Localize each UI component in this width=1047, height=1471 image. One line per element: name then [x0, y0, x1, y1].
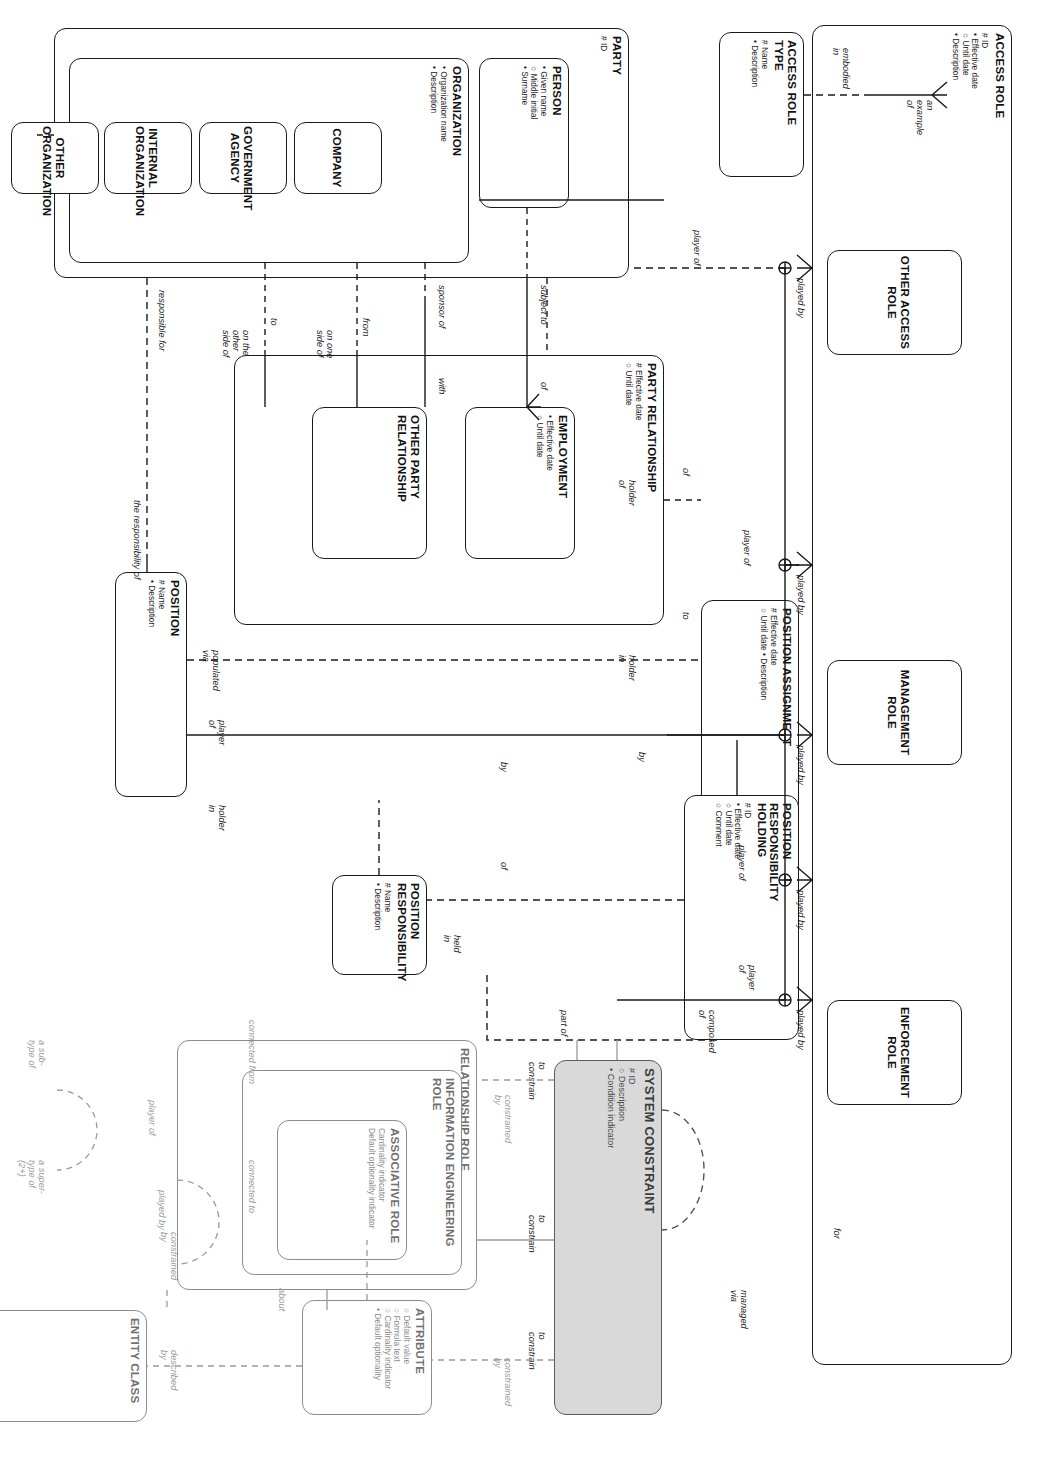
label-a-subtype-of: a sub- type of: [27, 1040, 47, 1068]
label-constrained-by-entity-class: constrained by: [159, 1232, 179, 1280]
entity-other-access-role[interactable]: OTHER ACCESS ROLE: [827, 250, 962, 355]
entity-title: OTHER ACCESS ROLE: [886, 255, 911, 350]
entity-system-constraint[interactable]: SYSTEM CONSTRAINT # ID ○ Description • C…: [554, 1060, 662, 1415]
entity-other-organization[interactable]: OTHER ORGANIZATION: [11, 122, 99, 194]
entity-attributes: # ID: [598, 36, 608, 274]
label-of-position-responsibility: of: [499, 862, 509, 870]
label-by-left: by: [637, 752, 647, 762]
entity-position[interactable]: POSITION # Name • Description: [115, 572, 187, 797]
label-player-of-entity-class: player of: [147, 1100, 157, 1136]
label-to-constrain-3: to constrain: [527, 1332, 547, 1370]
label-played-by-5: played by: [796, 1010, 806, 1050]
label-played-by-3: played by: [796, 745, 806, 785]
entity-title: EMPLOYMENT: [557, 415, 570, 554]
label-of-party-relationship: of: [681, 468, 691, 476]
entity-government-agency[interactable]: GOVERNMENT AGENCY: [199, 122, 287, 194]
entity-title: OTHER ORGANIZATION: [41, 126, 66, 190]
entity-title: PARTY RELATIONSHIP: [646, 363, 659, 620]
label-subject-to: subject to: [539, 285, 549, 325]
label-a-supertype-of: a super- type of (2+): [16, 1160, 47, 1194]
label-to-constrain-2: to constrain: [527, 1215, 547, 1253]
label-holder-of: holder of: [617, 480, 637, 506]
label-responsible-for: responsible for: [157, 290, 167, 351]
label-to-constrain-1: to constrain: [527, 1062, 547, 1100]
entity-access-role-type[interactable]: ACCESS ROLE TYPE # Name • Description: [719, 32, 804, 177]
entity-attributes: # Name • Description: [373, 883, 392, 971]
entity-title: INFORMATION ENGINEERING ROLE: [431, 1078, 456, 1270]
entity-entity-class[interactable]: ENTITY CLASS: [0, 1310, 147, 1422]
label-player-of-position: player of: [207, 720, 227, 745]
label-described-by: described by: [159, 1350, 179, 1390]
entity-title: GOVERNMENT AGENCY: [229, 126, 254, 190]
label-held-in: held in: [442, 935, 462, 953]
entity-title: ENFORCEMENT ROLE: [886, 1005, 911, 1100]
label-player-of-party: player of: [692, 230, 702, 266]
label-played-by-entity-class: played by: [157, 1190, 167, 1230]
label-to-position: to: [681, 612, 691, 620]
entity-associative-role[interactable]: ASSOCIATIVE ROLE Cardinality indicator D…: [277, 1120, 407, 1260]
label-managed-via: managed via: [729, 1290, 749, 1329]
entity-attributes: ○ Default value ○ Formula text ○ Cardina…: [373, 1308, 411, 1411]
entity-position-responsibility-holding[interactable]: POSITION RESPONSIBILITY HOLDING # ID • E…: [684, 795, 799, 1040]
label-of-employment: of: [539, 382, 549, 390]
entity-title: MANAGEMENT ROLE: [886, 665, 911, 760]
entity-title: POSITION RESPONSIBILITY: [396, 883, 421, 970]
entity-title: ENTITY CLASS: [129, 1318, 142, 1417]
entity-attributes: # ID • Effective date ○ Until date ○ Com…: [714, 803, 752, 1036]
label-part-of: part of: [559, 1010, 569, 1036]
entity-title: INTERNAL ORGANIZATION: [134, 126, 159, 190]
label-embodied-in: embodied in: [831, 48, 851, 89]
label-composed-of: composed of: [697, 1010, 717, 1053]
entity-party-relationship[interactable]: PARTY RELATIONSHIP # Effective date ○ Un…: [234, 355, 664, 625]
label-by-right: by: [499, 762, 509, 772]
label-an-example-of: an example of: [904, 100, 935, 135]
label-about: about: [277, 1288, 287, 1311]
label-sponsor-of: sponsor of: [437, 285, 447, 328]
entity-title: PERSON: [551, 66, 564, 203]
entity-attributes: • Effective date ○ Until date: [535, 415, 554, 555]
label-played-by-2: played by: [796, 575, 806, 615]
entity-other-party-relationship[interactable]: OTHER PARTY RELATIONSHIP: [312, 407, 427, 559]
entity-title: ASSOCIATIVE ROLE: [389, 1128, 402, 1255]
entity-title: PARTY: [611, 36, 624, 273]
label-constrained-by-attribute: constrained by: [493, 1358, 513, 1406]
entity-employment[interactable]: EMPLOYMENT • Effective date ○ Until date: [465, 407, 575, 559]
label-played-by-4: played by: [796, 890, 806, 930]
entity-management-role[interactable]: MANAGEMENT ROLE: [827, 660, 962, 765]
label-with-employment: with: [437, 378, 447, 395]
entity-title: ORGANIZATION: [451, 66, 464, 258]
entity-title: ACCESS ROLE TYPE: [773, 40, 798, 172]
label-connected-to: connected to: [247, 1160, 257, 1213]
entity-attributes: # Name • Description: [147, 580, 166, 793]
entity-title: ATTRIBUTE: [414, 1308, 427, 1410]
entity-attributes: Cardinality indicator Default optionalit…: [367, 1128, 386, 1256]
label-for: for: [832, 1228, 842, 1239]
label-constrained-by-ie: constrained by: [493, 1095, 513, 1143]
entity-attributes: # Name • Description: [750, 40, 769, 173]
entity-title: POSITION: [169, 580, 182, 792]
entity-enforcement-role[interactable]: ENFORCEMENT ROLE: [827, 1000, 962, 1105]
label-player-of-prh-2: player of: [737, 965, 757, 990]
label-the-responsibility-of: the responsibility of: [132, 500, 142, 580]
label-from: from: [361, 318, 371, 337]
label-player-of-position-assignment: player of: [742, 530, 752, 566]
entity-company[interactable]: COMPANY: [294, 122, 382, 194]
label-connected-from: connected from: [247, 1020, 257, 1084]
entity-position-responsibility[interactable]: POSITION RESPONSIBILITY # Name • Descrip…: [332, 875, 427, 975]
entity-title: POSITION RESPONSIBILITY HOLDING: [756, 803, 794, 1035]
diagram-canvas: ACCESS ROLE # ID • Effective date ○ Unti…: [0, 0, 1047, 1471]
entity-title: COMPANY: [331, 126, 344, 190]
entity-title: ACCESS ROLE: [994, 33, 1007, 1360]
entity-attribute[interactable]: ATTRIBUTE ○ Default value ○ Formula text…: [302, 1300, 432, 1415]
entity-attributes: • Given name ○ Middle initial • Surname: [519, 66, 548, 204]
entity-internal-organization[interactable]: INTERNAL ORGANIZATION: [104, 122, 192, 194]
label-on-the-other-side-of: on the other side of: [220, 330, 251, 357]
entity-person[interactable]: PERSON • Given name ○ Middle initial • S…: [479, 58, 569, 208]
entity-attributes: • Organization name • Description: [429, 66, 448, 259]
label-played-by-1: played by: [796, 278, 806, 318]
label-populated-via: populated via: [201, 650, 221, 691]
entity-title: SYSTEM CONSTRAINT: [642, 1068, 656, 1410]
label-holder-in-position: holder in: [207, 805, 227, 831]
entity-attributes: # ID ○ Description • Condition indicator: [606, 1068, 637, 1411]
label-on-one-side-of: on one side of: [315, 330, 335, 358]
